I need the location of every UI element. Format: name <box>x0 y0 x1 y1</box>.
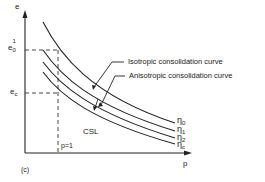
anisotropic-label: Anisotropic consolidation curve <box>129 72 232 80</box>
e0-label: e10 <box>8 44 16 53</box>
x-axis-label: p <box>183 160 187 168</box>
leader-lines <box>94 62 125 108</box>
axes <box>25 16 186 153</box>
curve-label-etac: ηc <box>177 140 185 150</box>
p1-label: p=1 <box>61 142 73 149</box>
reference-lines <box>25 50 58 153</box>
consolidation-curves <box>43 22 175 144</box>
x-axis-arrow-icon <box>184 151 192 156</box>
csl-label: CSL <box>83 128 99 136</box>
panel-label: (c) <box>21 166 29 173</box>
y-axis-label: e <box>15 3 19 11</box>
isotropic-leader <box>94 62 124 87</box>
y-axis-arrow-icon <box>23 10 28 18</box>
ec-label: ec <box>10 88 17 97</box>
diagram-canvas <box>0 0 265 182</box>
isotropic-label: Isotropic consolidation curve <box>128 58 223 66</box>
